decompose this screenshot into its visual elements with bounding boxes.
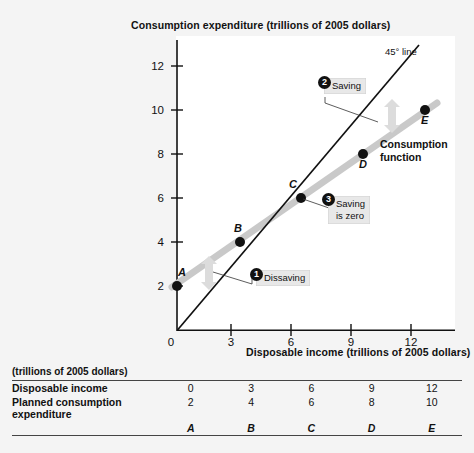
- point-label-e: E: [421, 114, 428, 126]
- callout-saving-leader: [325, 97, 378, 122]
- chart-panel: Consumption expenditure (trillions of 20…: [0, 0, 474, 362]
- callout-2-number: 2: [318, 76, 331, 89]
- cell-pc-1: 4: [221, 395, 281, 421]
- cell-pc-2: 6: [281, 395, 341, 421]
- cell-pc-3: 8: [341, 395, 401, 421]
- forty-five-degree-line-label: 45° line: [385, 46, 417, 57]
- row-label-disposable-income: Disposable income: [12, 381, 161, 396]
- row-label-line-1: Planned consumption: [12, 396, 161, 408]
- cell-pc-0: 2: [161, 395, 221, 421]
- callout-1-dissaving: Dissaving: [256, 270, 310, 286]
- data-table: Disposable income 0 3 6 9 12 Planned con…: [12, 380, 462, 436]
- data-point-a: [172, 281, 182, 291]
- point-label-a: A: [178, 266, 186, 278]
- cell-pc-4: 10: [402, 395, 462, 421]
- cell-di-4: 12: [402, 381, 462, 396]
- callout-1-number: 1: [250, 268, 263, 281]
- forty-five-degree-line: [178, 45, 420, 330]
- table-row: Disposable income 0 3 6 9 12: [12, 381, 462, 396]
- point-label-d: D: [359, 158, 367, 170]
- data-table-panel: (trillions of 2005 dollars) Disposable i…: [12, 366, 462, 448]
- consumption-function-label: Consumption function: [380, 138, 460, 163]
- cell-pt-1: B: [221, 421, 281, 436]
- table-caption: (trillions of 2005 dollars): [12, 366, 462, 380]
- callout-3-number: 3: [322, 193, 335, 206]
- data-point-b: [235, 237, 245, 247]
- point-label-b: B: [234, 222, 242, 234]
- callout-3-line-1: Saving: [336, 198, 365, 210]
- cell-pt-0: A: [161, 421, 221, 436]
- table-row-points: A B C D E: [12, 421, 462, 436]
- point-label-c: C: [289, 178, 297, 190]
- cell-di-2: 6: [281, 381, 341, 396]
- row-label-points: [12, 421, 161, 436]
- row-label-planned-consumption: Planned consumption expenditure: [12, 395, 161, 421]
- figure-container: Consumption expenditure (trillions of 20…: [0, 0, 474, 453]
- cell-di-0: 0: [161, 381, 221, 396]
- cell-pt-2: C: [281, 421, 341, 436]
- data-point-c: [296, 193, 306, 203]
- cell-pt-4: E: [402, 421, 462, 436]
- cell-di-3: 9: [341, 381, 401, 396]
- callout-3-line-2: is zero: [336, 210, 365, 222]
- table-row: Planned consumption expenditure 2 4 6 8 …: [12, 395, 462, 421]
- cell-pt-3: D: [341, 421, 401, 436]
- cell-di-1: 3: [221, 381, 281, 396]
- row-label-line-2: expenditure: [12, 408, 161, 420]
